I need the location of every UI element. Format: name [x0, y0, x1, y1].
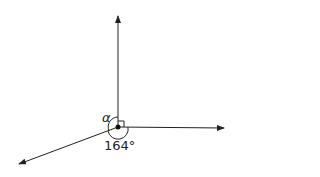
angle-164-label: 164° [104, 138, 135, 153]
alpha-label: α [102, 110, 111, 125]
vertex-point [116, 125, 121, 130]
ray-right [118, 127, 224, 128]
